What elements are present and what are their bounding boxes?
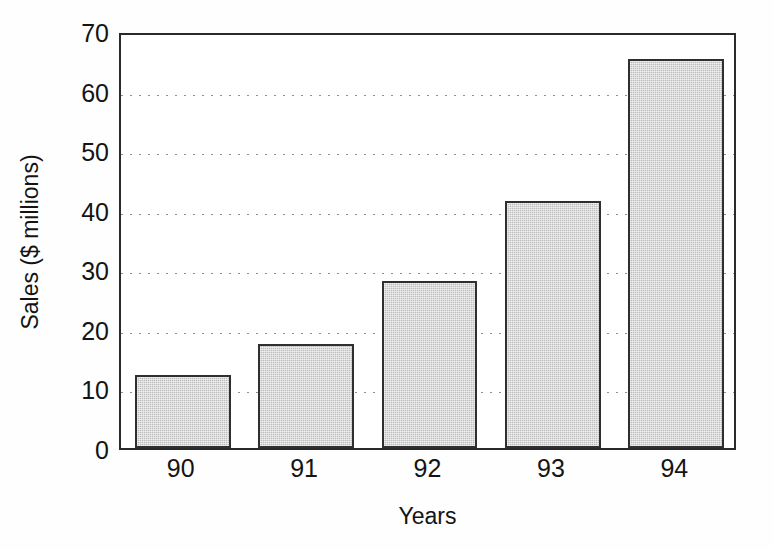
y-tick-label: 10 (53, 378, 109, 403)
plot-area (119, 33, 736, 450)
y-axis-tick-labels: 010203040506070 (47, 0, 109, 550)
y-axis-title: Sales ($ millions) (8, 33, 52, 450)
y-tick-label: 0 (53, 438, 109, 463)
x-tick-label: 91 (290, 456, 318, 481)
bar-chart-figure: Sales ($ millions) 010203040506070 90919… (0, 0, 773, 550)
bar (505, 201, 601, 448)
bar (258, 344, 354, 448)
x-axis-title: Years (119, 503, 736, 530)
y-axis-title-label: Sales ($ millions) (17, 154, 44, 329)
y-tick-label: 60 (53, 80, 109, 105)
bar (135, 375, 231, 448)
y-tick-label: 30 (53, 259, 109, 284)
bar-series (121, 35, 734, 448)
x-tick-label: 94 (660, 456, 688, 481)
x-tick-label: 92 (414, 456, 442, 481)
y-tick-label: 40 (53, 199, 109, 224)
y-tick-label: 70 (53, 21, 109, 46)
y-tick-label: 20 (53, 318, 109, 343)
bar (628, 59, 724, 448)
x-tick-label: 93 (537, 456, 565, 481)
x-tick-label: 90 (167, 456, 195, 481)
bar (382, 281, 478, 448)
y-tick-label: 50 (53, 140, 109, 165)
x-axis-tick-labels: 9091929394 (119, 456, 736, 496)
